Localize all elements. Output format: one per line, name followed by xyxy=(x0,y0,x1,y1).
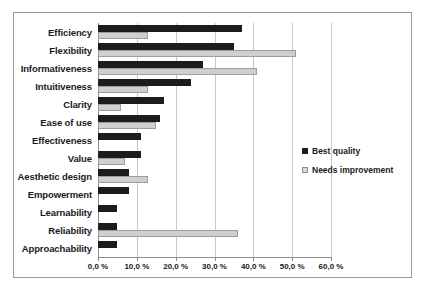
bar-best-quality xyxy=(98,205,117,212)
x-tick-label: 10,0 % xyxy=(124,262,149,271)
category-row: Value xyxy=(98,149,331,167)
x-tick-label: 30,0 % xyxy=(202,262,227,271)
bar-needs-improvement xyxy=(98,32,148,39)
category-row: Reliability xyxy=(98,221,331,239)
category-label: Approachability xyxy=(22,243,92,254)
category-label: Reliability xyxy=(48,225,92,236)
category-label: Ease of use xyxy=(40,117,92,128)
category-label: Aesthetic design xyxy=(18,171,92,182)
legend-label: Best quality xyxy=(312,146,360,156)
tickmark-60 xyxy=(331,257,332,261)
chart-frame: EfficiencyFlexibilityInformativenessIntu… xyxy=(13,12,412,278)
legend-item: Needs improvement xyxy=(302,165,393,175)
legend-label: Needs improvement xyxy=(312,165,393,175)
bar-needs-improvement xyxy=(98,68,257,75)
x-tick-label: 0,0 % xyxy=(88,262,108,271)
category-row: Informativeness xyxy=(98,59,331,77)
bar-needs-improvement xyxy=(98,122,156,129)
bar-best-quality xyxy=(98,241,117,248)
x-tick-label: 50,0 % xyxy=(280,262,305,271)
bar-needs-improvement xyxy=(98,158,125,165)
tickmark-20 xyxy=(176,257,177,261)
bar-best-quality xyxy=(98,79,191,86)
bar-best-quality xyxy=(98,97,164,104)
bar-needs-improvement xyxy=(98,176,148,183)
legend-swatch-icon xyxy=(302,167,308,173)
bar-best-quality xyxy=(98,43,234,50)
category-row: Ease of use xyxy=(98,113,331,131)
tickmark-10 xyxy=(137,257,138,261)
bar-needs-improvement xyxy=(98,50,296,57)
bar-best-quality xyxy=(98,223,117,230)
category-label: Learnability xyxy=(40,207,92,218)
tickmark-30 xyxy=(215,257,216,261)
category-row: Clarity xyxy=(98,95,331,113)
x-axis-tick-labels: 0,0 %10,0 %20,0 %30,0 %40,0 %50,0 %60,0 … xyxy=(98,262,331,276)
category-row: Intuitiveness xyxy=(98,77,331,95)
legend-item: Best quality xyxy=(302,146,393,156)
x-tick-label: 40,0 % xyxy=(241,262,266,271)
category-row: Approachability xyxy=(98,239,331,257)
legend-swatch-icon xyxy=(302,148,308,154)
bar-rows: EfficiencyFlexibilityInformativenessIntu… xyxy=(98,23,331,257)
category-label: Effectiveness xyxy=(32,135,92,146)
bar-best-quality xyxy=(98,61,203,68)
bar-best-quality xyxy=(98,115,160,122)
category-label: Clarity xyxy=(63,99,92,110)
gridline-60 xyxy=(331,23,332,257)
bar-best-quality xyxy=(98,187,129,194)
tickmark-50 xyxy=(292,257,293,261)
plot-area: EfficiencyFlexibilityInformativenessIntu… xyxy=(98,23,331,257)
bar-needs-improvement xyxy=(98,86,148,93)
bar-best-quality xyxy=(98,151,141,158)
category-label: Efficiency xyxy=(48,27,92,38)
category-label: Flexibility xyxy=(49,45,92,56)
chart-legend: Best qualityNeeds improvement xyxy=(302,146,393,184)
x-tick-label: 20,0 % xyxy=(163,262,188,271)
tickmark-0 xyxy=(98,257,99,261)
bar-needs-improvement xyxy=(98,230,238,237)
category-row: Efficiency xyxy=(98,23,331,41)
category-label: Intuitiveness xyxy=(35,81,92,92)
category-row: Empowerment xyxy=(98,185,331,203)
x-tick-label: 60,0 % xyxy=(319,262,344,271)
bar-best-quality xyxy=(98,169,129,176)
bar-best-quality xyxy=(98,25,242,32)
category-row: Effectiveness xyxy=(98,131,331,149)
category-label: Informativeness xyxy=(21,63,92,74)
category-row: Learnability xyxy=(98,203,331,221)
bar-best-quality xyxy=(98,133,141,140)
category-row: Aesthetic design xyxy=(98,167,331,185)
category-label: Value xyxy=(68,153,92,164)
bar-needs-improvement xyxy=(98,104,121,111)
category-label: Empowerment xyxy=(28,189,92,200)
category-row: Flexibility xyxy=(98,41,331,59)
tickmark-40 xyxy=(253,257,254,261)
